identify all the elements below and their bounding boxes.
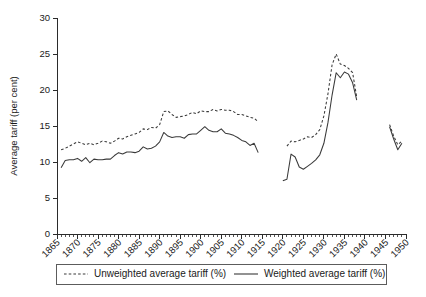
series-unweighted-segment-0: [61, 109, 258, 149]
x-axis-tick-label: 1910: [224, 237, 247, 260]
x-axis-tick-label: 1920: [265, 237, 288, 260]
axes: 0510152025301865187018751880188518901895…: [39, 12, 411, 259]
y-axis-tick-label: 20: [39, 84, 50, 95]
y-axis-title: Average tariff (per cent): [8, 76, 19, 175]
x-axis-tick-label: 1925: [286, 237, 309, 260]
y-axis-tick-label: 25: [39, 48, 50, 59]
x-axis-tick-label: 1880: [101, 237, 124, 260]
x-axis-tick-label: 1865: [39, 237, 62, 260]
y-axis-tick-label: 10: [39, 156, 50, 167]
x-axis-tick-label: 1950: [388, 237, 411, 260]
x-axis-tick-label: 1945: [368, 237, 391, 260]
x-axis-tick-label: 1870: [60, 237, 83, 260]
y-axis-tick-label: 5: [45, 192, 50, 203]
chart-canvas: 0510152025301865187018751880188518901895…: [0, 0, 426, 297]
tariff-chart-figure: 0510152025301865187018751880188518901895…: [0, 0, 426, 297]
x-axis-tick-label: 1935: [327, 237, 350, 260]
x-axis-tick-label: 1885: [121, 237, 144, 260]
series-unweighted-segment-1: [287, 54, 357, 146]
x-axis-tick-label: 1890: [142, 237, 165, 260]
x-axis-tick-label: 1875: [80, 237, 103, 260]
legend-label-weighted: Weighted average tariff (%): [264, 268, 385, 279]
x-axis-tick-label: 1940: [347, 237, 370, 260]
y-axis-tick-label: 30: [39, 12, 50, 23]
x-axis-tick-label: 1895: [162, 237, 185, 260]
y-axis-tick-label: 15: [39, 120, 50, 131]
x-axis-tick-label: 1905: [203, 237, 226, 260]
series-weighted-segment-1: [283, 72, 357, 181]
data-series: [61, 54, 402, 181]
x-axis-tick-label: 1900: [183, 237, 206, 260]
x-axis-tick-label: 1930: [306, 237, 329, 260]
series-weighted-segment-0: [61, 127, 258, 168]
axis-labels: Average tariff (per cent): [8, 76, 19, 175]
y-axis-tick-label: 0: [45, 228, 50, 239]
legend-label-unweighted: Unweighted average tariff (%): [94, 268, 226, 279]
x-axis-tick-label: 1915: [244, 237, 267, 260]
chart-legend: Unweighted average tariff (%)Weighted av…: [56, 264, 386, 284]
series-unweighted-segment-2: [390, 125, 402, 145]
